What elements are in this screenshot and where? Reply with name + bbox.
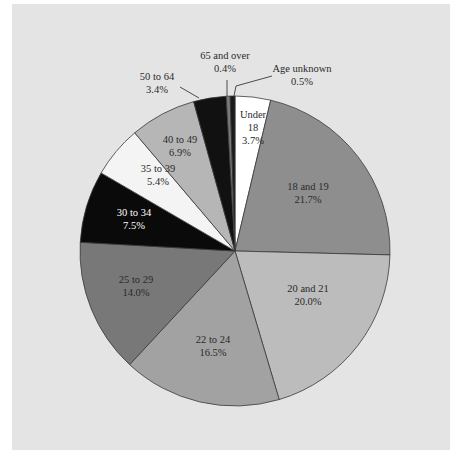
slice-percent: 21.7% [294, 194, 321, 205]
slice-percent: 3.4% [146, 84, 168, 95]
slice-percent: 7.5% [123, 220, 145, 231]
slice-percent: 6.9% [169, 147, 191, 158]
slice-percent: 3.7% [242, 135, 264, 146]
slice-category: Under [240, 109, 267, 120]
slice-category: Age unknown [272, 63, 332, 74]
slice-category: 50 to 64 [140, 71, 175, 82]
slice-category: 40 to 49 [163, 134, 197, 145]
slice-category: 65 and over [200, 50, 250, 61]
slice-percent: 16.5% [199, 347, 226, 358]
slice-label-age-unknown: Age unknown0.5% [272, 63, 332, 87]
slice-category: 25 to 29 [119, 274, 153, 285]
leader-line [234, 76, 272, 96]
slice-category: 20 and 21 [287, 283, 328, 294]
slice-percent: 14.0% [122, 287, 149, 298]
slice-percent: 0.4% [214, 63, 236, 74]
callout-leader-lines [180, 76, 272, 98]
slice-percent: 5.4% [147, 176, 169, 187]
slice-percent: 0.5% [291, 76, 313, 87]
slice-category: 18 [248, 122, 259, 133]
pie-slices [80, 96, 390, 406]
slice-category: 35 to 39 [141, 163, 175, 174]
slice-category: 30 to 34 [117, 207, 152, 218]
slice-label-50-to-64: 50 to 643.4% [140, 71, 175, 95]
slice-category: 22 to 24 [196, 334, 231, 345]
slice-category: 18 and 19 [287, 181, 328, 192]
slice-percent: 20.0% [294, 296, 321, 307]
slice-label-65-and-over: 65 and over0.4% [200, 50, 250, 74]
pie-chart: Under183.7%18 and 1921.7%20 and 2120.0%2… [0, 0, 450, 461]
leader-line [180, 87, 199, 98]
